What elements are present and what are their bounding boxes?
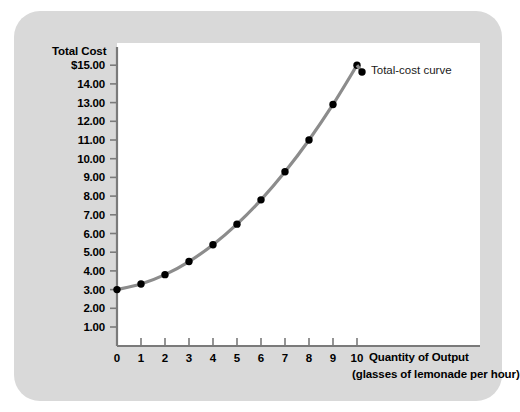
series-annotation-label: Total-cost curve (371, 64, 452, 76)
data-point (113, 286, 120, 293)
y-tick-label: 1.00 (14, 321, 105, 333)
y-tick-label: 13.00 (14, 97, 105, 109)
x-tick-label: 0 (114, 352, 120, 364)
y-tick-label: 3.00 (14, 284, 105, 296)
y-tick-label: 8.00 (14, 190, 105, 202)
x-tick-label: 2 (162, 352, 168, 364)
y-tick-label: 7.00 (14, 209, 105, 221)
y-tick-label: $15.00 (14, 59, 105, 71)
data-point (257, 196, 264, 203)
y-tick-label: 10.00 (14, 153, 105, 165)
legend-marker (358, 68, 365, 75)
x-tick-label: 4 (210, 352, 216, 364)
figure-panel: Total Cost Quantity of Output (glasses o… (14, 11, 502, 401)
y-tick-label: 14.00 (14, 78, 105, 90)
data-point (185, 258, 192, 265)
data-point (281, 168, 288, 175)
data-point (161, 271, 168, 278)
legend-connector (357, 65, 366, 76)
data-point (209, 241, 216, 248)
x-tick-label: 3 (186, 352, 192, 364)
chart-axes (110, 47, 480, 346)
x-tick-label: 8 (306, 352, 312, 364)
data-point (305, 136, 312, 143)
x-axis-subtitle: (glasses of lemonade per hour) (352, 368, 520, 380)
y-tick-label: 6.00 (14, 228, 105, 240)
x-tick-label: 1 (138, 352, 144, 364)
y-tick-label: 9.00 (14, 171, 105, 183)
data-point (137, 280, 144, 287)
y-tick-label: 5.00 (14, 246, 105, 258)
data-point (329, 101, 336, 108)
y-tick-label: 2.00 (14, 302, 105, 314)
y-tick-label: 11.00 (14, 134, 105, 146)
x-tick-label: 6 (258, 352, 264, 364)
y-tick-label: 4.00 (14, 265, 105, 277)
x-tick-label: 5 (234, 352, 240, 364)
x-tick-label: 10 (351, 352, 364, 364)
x-tick-label: 7 (282, 352, 288, 364)
y-axis-title: Total Cost (52, 45, 106, 57)
y-tick-label: 12.00 (14, 115, 105, 127)
x-axis-title: Quantity of Output (369, 351, 469, 363)
total-cost-chart: Total Cost Quantity of Output (glasses o… (14, 11, 502, 401)
x-tick-label: 9 (330, 352, 336, 364)
total-cost-curve-line (117, 65, 357, 289)
data-point (233, 220, 240, 227)
data-point-markers (113, 62, 360, 294)
